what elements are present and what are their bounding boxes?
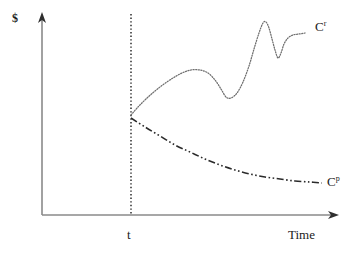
x-axis-label: Time xyxy=(288,228,315,241)
y-axis-label: $ xyxy=(12,12,18,24)
curve-label-cp-superscript: p xyxy=(336,174,340,183)
chart-figure: $ Time t Cr Cp xyxy=(0,0,359,256)
x-axis-tick-label-t: t xyxy=(127,228,131,241)
chart-plot-area xyxy=(0,0,359,256)
curve-label-cp: Cp xyxy=(327,175,340,188)
curve-label-cr-base: C xyxy=(315,19,324,34)
curve-label-cr-superscript: r xyxy=(324,19,327,28)
curve-label-cr: Cr xyxy=(315,20,326,33)
curve-recovery-cr xyxy=(131,21,305,115)
curve-persistent-cp xyxy=(131,118,322,183)
curve-label-cp-base: C xyxy=(327,174,336,189)
